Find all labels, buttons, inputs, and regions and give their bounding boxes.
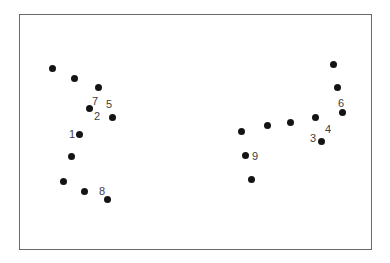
dot-16	[264, 122, 271, 129]
dot-9	[104, 196, 111, 203]
dot-11	[334, 84, 341, 91]
dot-18	[242, 152, 249, 159]
dot-5	[76, 131, 83, 138]
dot-13	[312, 114, 319, 121]
dot-15	[287, 119, 294, 126]
dot-pattern-figure: 725186439	[0, 0, 390, 263]
dot-17	[238, 128, 245, 135]
point-label-7: 7	[92, 96, 98, 107]
dot-1	[71, 75, 78, 82]
dot-0	[49, 65, 56, 72]
dot-2	[95, 84, 102, 91]
dot-10	[330, 61, 337, 68]
dot-14	[318, 138, 325, 145]
dot-12	[339, 109, 346, 116]
point-label-5: 5	[106, 99, 112, 110]
point-label-2: 2	[94, 111, 100, 122]
point-label-4: 4	[325, 124, 331, 135]
point-label-6: 6	[338, 98, 344, 109]
dot-19	[248, 176, 255, 183]
dot-8	[81, 188, 88, 195]
point-label-8: 8	[99, 186, 105, 197]
dot-6	[68, 153, 75, 160]
point-label-9: 9	[252, 151, 258, 162]
dot-7	[60, 178, 67, 185]
point-label-3: 3	[310, 133, 316, 144]
point-label-1: 1	[69, 129, 75, 140]
dot-4	[109, 114, 116, 121]
